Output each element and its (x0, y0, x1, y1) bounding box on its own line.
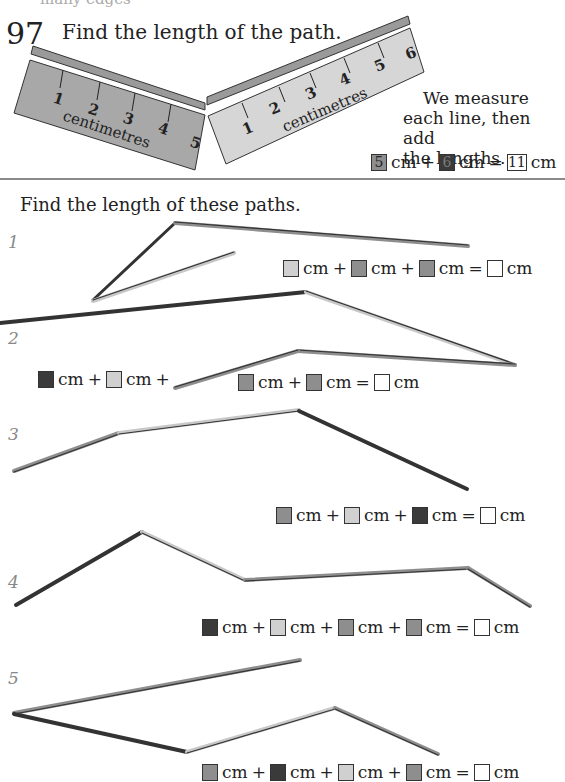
swatch-mid (406, 764, 422, 781)
path-5 (14, 660, 438, 755)
question-number: 5 (8, 668, 19, 688)
plus-sign: + (387, 762, 401, 782)
unit-label: cm (394, 372, 420, 392)
page-number: 97 (6, 16, 44, 51)
swatch-mid (276, 507, 292, 524)
unit-label: cm (258, 372, 284, 392)
unit-label: cm (58, 369, 84, 389)
unit-label: cm (364, 505, 390, 525)
unit-label: cm (296, 505, 322, 525)
plus-sign: + (288, 372, 302, 392)
unit-label: cm (531, 152, 557, 172)
answer-box[interactable] (374, 374, 390, 391)
swatch-dark (38, 371, 54, 388)
equation-q1: cm + cm + cm = cm (283, 258, 532, 278)
unit-label: cm (494, 617, 520, 637)
swatch-light (283, 260, 299, 277)
unit-label: cm (439, 258, 465, 278)
equals-sign: = (455, 762, 469, 782)
equals-sign: = (455, 617, 469, 637)
example-equation: 5 cm + 6 cm = 11 cm (371, 152, 556, 172)
unit-label: cm (459, 152, 485, 172)
unit-label: cm (426, 617, 452, 637)
swatch-mid (406, 619, 422, 636)
equals-sign: = (468, 258, 482, 278)
plus-sign: + (320, 617, 334, 637)
swatch-dark (270, 764, 286, 781)
answer-box[interactable] (480, 507, 496, 524)
swatch-mid: 5 (371, 154, 387, 171)
swatch-mid (338, 619, 354, 636)
equals-sign: = (489, 152, 503, 172)
path-3 (14, 410, 467, 489)
question-number: 2 (8, 328, 19, 348)
equals-sign: = (461, 505, 475, 525)
unit-label: cm (507, 258, 533, 278)
swatch-dark (202, 619, 218, 636)
unit-label: cm (371, 258, 397, 278)
unit-label: cm (290, 762, 316, 782)
unit-label: cm (222, 617, 248, 637)
equation-q3: cm + cm + cm = cm (276, 505, 525, 525)
plus-sign: + (387, 617, 401, 637)
answer-box: 11 (507, 154, 527, 171)
plus-sign: + (326, 505, 340, 525)
unit-label: cm (391, 152, 417, 172)
path-4 (16, 532, 530, 607)
swatch-light (270, 619, 286, 636)
equation-q2-start: cm + cm + (38, 369, 170, 389)
plus-sign: + (252, 617, 266, 637)
unit-label: cm (494, 762, 520, 782)
swatch-light (338, 764, 354, 781)
plus-sign: + (421, 152, 435, 172)
plus-sign: + (401, 258, 415, 278)
unit-label: cm (126, 369, 152, 389)
swatch-dark: 6 (439, 154, 455, 171)
swatch-light (106, 371, 122, 388)
unit-label: cm (426, 762, 452, 782)
swatch-light (344, 507, 360, 524)
unit-label: cm (290, 617, 316, 637)
swatch-mid (202, 764, 218, 781)
equation-q4: cm + cm + cm + cm = cm (202, 617, 519, 637)
swatch-mid (238, 374, 254, 391)
answer-box[interactable] (474, 619, 490, 636)
unit-label: cm (432, 505, 458, 525)
question-number: 1 (8, 232, 19, 252)
explanation-line: each line, then add (403, 108, 565, 148)
plus-sign: + (252, 762, 266, 782)
question-number: 4 (8, 572, 19, 592)
plus-sign: + (88, 369, 102, 389)
swatch-mid (306, 374, 322, 391)
cutoff-text: many edges (40, 0, 131, 8)
unit-label: cm (358, 762, 384, 782)
divider (0, 178, 565, 180)
swatch-mid (419, 260, 435, 277)
unit-label: cm (222, 762, 248, 782)
unit-label: cm (358, 617, 384, 637)
section-subtitle: Find the length of these paths. (20, 194, 301, 215)
unit-label: cm (500, 505, 526, 525)
equals-sign: = (356, 372, 370, 392)
unit-label: cm (326, 372, 352, 392)
answer-box[interactable] (474, 764, 490, 781)
plus-sign: + (320, 762, 334, 782)
unit-label: cm (303, 258, 329, 278)
ruler-right: 1 2 3 4 5 6 centimetres (208, 28, 424, 164)
explanation-line: We measure (403, 88, 565, 108)
plus-sign: + (333, 258, 347, 278)
swatch-mid (351, 260, 367, 277)
question-number: 3 (8, 424, 19, 444)
plus-sign: + (394, 505, 408, 525)
page-title: Find the length of the path. (62, 20, 342, 44)
equation-q5: cm + cm + cm + cm = cm (202, 762, 519, 782)
answer-box[interactable] (487, 260, 503, 277)
equation-q2-end: cm + cm = cm (238, 372, 419, 392)
swatch-dark (412, 507, 428, 524)
plus-sign: + (156, 369, 170, 389)
